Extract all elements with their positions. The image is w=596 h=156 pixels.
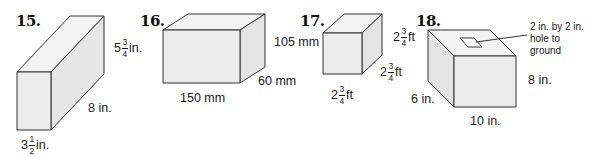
unit: in. xyxy=(129,42,142,55)
label-18-depth: 6 in. xyxy=(411,93,435,106)
label-16-height: 105 mm xyxy=(274,36,319,49)
fraction: 1 2 xyxy=(29,135,35,155)
hole-note-line-2: hole to xyxy=(530,33,584,45)
whole: 2 xyxy=(331,89,338,102)
whole: 3 xyxy=(21,139,28,152)
cube-17-front xyxy=(323,33,362,74)
denominator: 4 xyxy=(389,74,394,83)
numerator: 3 xyxy=(123,38,128,47)
fraction: 3 4 xyxy=(401,27,407,47)
fraction: 3 4 xyxy=(122,38,128,58)
label-15-width: 3 1 2 in. xyxy=(21,135,49,155)
prism-16 xyxy=(163,14,265,83)
denominator: 4 xyxy=(123,50,128,59)
label-16-length: 150 mm xyxy=(180,92,225,105)
figures-canvas xyxy=(0,0,596,156)
hole-note-line-3: ground xyxy=(530,45,584,57)
hole-note-line-1: 2 in. by 2 in. xyxy=(530,21,584,33)
numerator: 1 xyxy=(30,135,35,144)
fraction: 3 4 xyxy=(339,85,345,105)
unit: ft xyxy=(408,31,415,44)
unit: ft xyxy=(395,66,402,79)
problem-number-15: 15. xyxy=(16,12,41,30)
cube-17 xyxy=(323,14,382,74)
prism-18-front xyxy=(454,56,516,107)
label-16-depth: 60 mm xyxy=(258,75,296,88)
label-17-depth: 2 3 4 ft xyxy=(380,62,402,82)
numerator: 3 xyxy=(402,27,407,36)
denominator: 2 xyxy=(30,147,35,156)
label-15-height: 5 3 4 in. xyxy=(114,38,142,58)
prism-15-front xyxy=(17,72,51,130)
label-18-hole-note: 2 in. by 2 in. hole to ground xyxy=(530,21,584,57)
problem-number-17: 17. xyxy=(300,12,325,30)
numerator: 3 xyxy=(389,62,394,71)
label-18-length: 10 in. xyxy=(470,115,501,128)
unit: in. xyxy=(36,139,49,152)
whole: 2 xyxy=(380,66,387,79)
whole: 2 xyxy=(393,31,400,44)
fraction: 3 4 xyxy=(388,62,394,82)
denominator: 4 xyxy=(402,39,407,48)
numerator: 3 xyxy=(340,85,345,94)
label-17-height: 2 3 4 ft xyxy=(393,27,415,47)
label-18-height: 8 in. xyxy=(528,74,552,87)
prism-18 xyxy=(428,30,527,107)
problem-number-18: 18. xyxy=(416,12,441,30)
label-15-length: 8 in. xyxy=(88,102,112,115)
problem-number-16: 16. xyxy=(140,12,165,30)
unit: ft xyxy=(346,89,353,102)
label-17-length: 2 3 4 ft xyxy=(331,85,353,105)
denominator: 4 xyxy=(340,97,345,106)
whole: 5 xyxy=(114,42,121,55)
prism-16-front xyxy=(163,30,240,83)
